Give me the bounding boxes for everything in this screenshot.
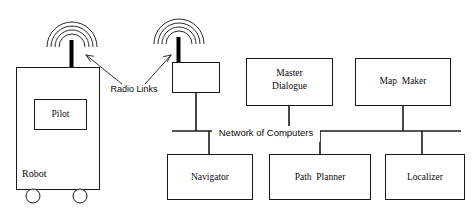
master-dialogue-label-line2: Dialogue [246,81,333,92]
network-of-computers-label: Network of Computers [212,128,320,139]
robot-wheel-right [73,189,87,203]
robot-wheel-left [26,189,40,203]
robot-antenna-mast [70,40,74,68]
base-station-box [173,63,220,93]
navigator-label: Navigator [167,172,253,183]
robot-label: Robot [22,168,46,179]
master-dialogue-label-line1: Master [246,68,333,79]
localizer-label: Localizer [385,172,465,183]
diagram-canvas: Pilot Robot Radio Links Master Dialogue … [0,0,475,214]
pilot-label: Pilot [34,109,87,120]
radio-links-label: Radio Links [103,84,165,94]
base-antenna-mast [177,37,181,63]
path-planner-label: Path Planner [269,172,371,183]
map-maker-label: Map Maker [355,76,451,87]
